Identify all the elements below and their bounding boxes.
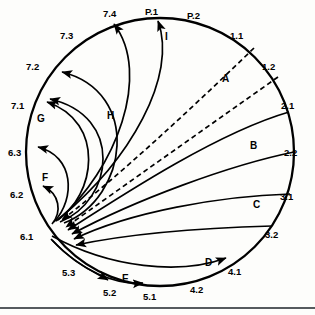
figure-container: 7.4 P.1 P.2 1.1 1.2 2.1 2.2 3.1 3.2 4.1 …: [0, 0, 315, 315]
circular-flow-diagram: [0, 0, 315, 315]
outer-circle: [26, 18, 294, 286]
connector-solid-6-3: [38, 147, 68, 222]
connector-dashed-1-2: [66, 77, 278, 227]
connector-solid-2-2: [72, 152, 294, 234]
connector-solid-6-2: [43, 186, 58, 224]
connector-solid-3-2: [76, 226, 272, 245]
connector-solid-7-2: [62, 72, 117, 223]
bottom-divider: [0, 307, 315, 309]
